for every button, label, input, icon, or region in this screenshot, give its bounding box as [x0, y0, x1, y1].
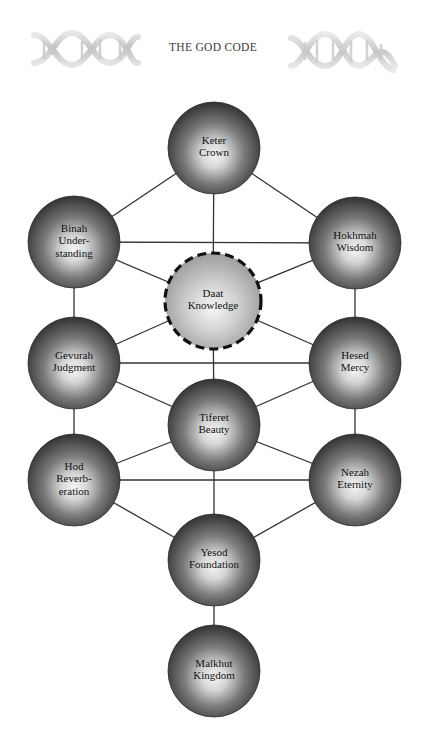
node-label-hod: Hod: [65, 460, 84, 472]
node-label-daat: Knowledge: [188, 299, 239, 311]
node-label-hod: Reverb-: [56, 472, 92, 484]
node-label-yesod: Foundation: [189, 558, 240, 570]
node-label-nezah: Nezah: [341, 466, 370, 478]
node-label-hesed: Mercy: [341, 361, 370, 373]
node-label-gevurah: Gevurah: [55, 349, 93, 361]
node-nezah: NezahEternity: [309, 434, 401, 526]
node-label-binah: Under-: [59, 234, 90, 246]
node-keter: KeterCrown: [168, 102, 260, 194]
node-label-hesed: Hesed: [341, 349, 369, 361]
node-label-hokhmah: Wisdom: [337, 241, 374, 253]
node-label-tiferet: Beauty: [198, 423, 230, 435]
node-malkhut: MalkhutKingdom: [168, 625, 260, 717]
node-gevurah: GevurahJudgment: [28, 317, 120, 409]
node-daat: DaatKnowledge: [165, 253, 261, 349]
node-label-malkhut: Malkhut: [195, 657, 232, 669]
node-label-yesod: Yesod: [200, 546, 228, 558]
node-label-binah: Binah: [61, 222, 88, 234]
node-hod: HodReverb-eration: [28, 434, 120, 526]
node-hokhmah: HokhmahWisdom: [309, 197, 401, 289]
node-binah: BinahUnder-standing: [28, 196, 120, 288]
node-label-keter: Keter: [202, 134, 227, 146]
node-label-nezah: Eternity: [337, 478, 373, 490]
node-label-keter: Crown: [199, 146, 229, 158]
tree-of-life-diagram: KeterCrownBinahUnder-standingHokhmahWisd…: [0, 0, 426, 744]
node-label-daat: Daat: [203, 287, 224, 299]
node-label-tiferet: Tiferet: [199, 411, 229, 423]
sefirot-nodes: KeterCrownBinahUnder-standingHokhmahWisd…: [28, 102, 401, 717]
node-label-gevurah: Judgment: [53, 361, 96, 373]
node-label-hod: eration: [59, 485, 90, 497]
node-tiferet: TiferetBeauty: [168, 379, 260, 471]
node-label-hokhmah: Hokhmah: [333, 229, 377, 241]
node-yesod: YesodFoundation: [168, 514, 260, 606]
node-label-malkhut: Kingdom: [193, 669, 235, 681]
node-hesed: HesedMercy: [309, 317, 401, 409]
node-label-binah: standing: [55, 247, 93, 259]
